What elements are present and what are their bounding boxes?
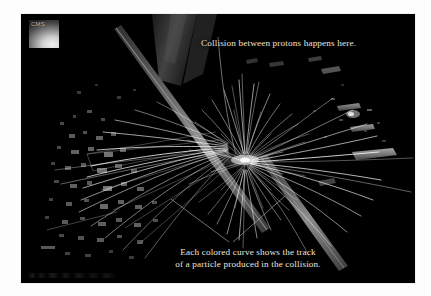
event-display-image: CMS Collision between protons happens he…	[21, 14, 415, 283]
annotation-caption-bottom: Each colored curve shows the track of a …	[128, 247, 368, 270]
figure-root: CMS Collision between protons happens he…	[0, 0, 431, 296]
leader-line-bottom-left	[171, 199, 229, 242]
annotation-caption-bottom-line2: of a particle produced in the collision.	[128, 259, 368, 271]
annotation-caption-top: Collision between protons happens here.	[201, 38, 356, 50]
annotation-leaders-layer	[21, 14, 415, 283]
image-credit-microtext	[28, 273, 138, 278]
cms-logo-wordmark: CMS	[31, 21, 45, 27]
leader-line-bottom-right	[233, 196, 285, 242]
leader-line-top	[218, 37, 236, 154]
cms-experiment-logo: CMS	[29, 20, 59, 48]
annotation-caption-bottom-line1: Each colored curve shows the track	[128, 247, 368, 259]
